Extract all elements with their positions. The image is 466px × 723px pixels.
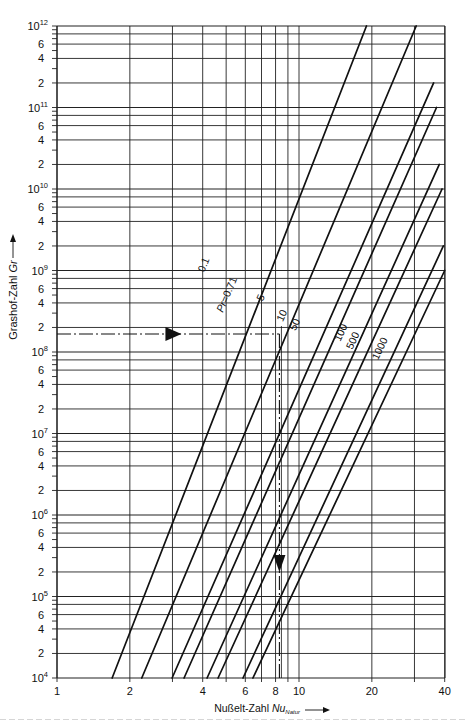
y-tick-label: 2 — [38, 566, 44, 578]
y-tick-label: 1012 — [27, 18, 48, 32]
y-tick-label: 2 — [38, 403, 44, 415]
y-tick-label: 109 — [32, 263, 48, 277]
y-tick-label: 104 — [32, 670, 48, 684]
curve-label: Pr=0.71 — [214, 275, 240, 314]
y-tick-label: 2 — [38, 158, 44, 170]
x-tick-label: 1 — [54, 685, 60, 697]
y-tick-label: 1011 — [28, 100, 48, 114]
nusselt-grashof-chart: 1042461052461062461072461082461092461010… — [0, 0, 466, 723]
y-tick-label: 6 — [38, 446, 44, 458]
y-tick-label: 2 — [38, 484, 44, 496]
y-axis-title: Grashof-Zahl Gr — [7, 259, 19, 340]
y-tick-label: 2 — [38, 77, 44, 89]
y-tick-label: 106 — [32, 507, 48, 521]
x-tick-label: 40 — [439, 685, 451, 697]
y-tick-label: 108 — [32, 344, 48, 358]
y-tick-label: 6 — [38, 364, 44, 376]
y-tick-label: 2 — [38, 647, 44, 659]
arrow-right-icon — [165, 327, 181, 341]
curve-pr-500 — [243, 246, 443, 678]
x-tick-label: 6 — [242, 685, 248, 697]
x-tick-label: 20 — [366, 685, 378, 697]
reading-guide — [57, 326, 285, 678]
y-tick-label: 6 — [38, 527, 44, 539]
curve-pr-50 — [207, 164, 439, 678]
y-tick-label: 6 — [38, 120, 44, 132]
y-tick-label: 6 — [38, 38, 44, 50]
y-tick-label: 6 — [38, 201, 44, 213]
x-tick-label: 10 — [293, 685, 305, 697]
y-tick-label: 4 — [38, 623, 44, 635]
grid — [52, 26, 445, 682]
caption-fragment — [0, 716, 466, 723]
x-tick-label: 8 — [272, 685, 278, 697]
y-tick-label: 4 — [38, 297, 44, 309]
y-tick-label: 4 — [38, 378, 44, 390]
y-tick-label: 4 — [38, 460, 44, 472]
curve-label: 5 — [254, 292, 267, 302]
y-tick-label: 2 — [38, 240, 44, 252]
y-tick-label: 105 — [32, 589, 48, 603]
y-tick-label: 4 — [38, 52, 44, 64]
y-tick-label: 4 — [38, 541, 44, 553]
x-tick-label: 2 — [127, 685, 133, 697]
y-tick-label: 1010 — [27, 181, 48, 195]
x-axis-title: Nußelt-Zahl NuNatur — [214, 702, 301, 715]
curve-pr-5 — [172, 83, 434, 678]
y-tick-label: 6 — [38, 609, 44, 621]
y-tick-label: 4 — [38, 215, 44, 227]
y-axis-ticks: 1042461052461062461072461082461092461010… — [27, 18, 48, 684]
x-tick-label: 4 — [200, 685, 206, 697]
x-axis-ticks: 12468102040 — [54, 685, 451, 697]
y-tick-label: 107 — [32, 426, 48, 440]
y-tick-label: 2 — [38, 321, 44, 333]
curve-pr-10 — [184, 108, 436, 679]
y-tick-label: 4 — [38, 134, 44, 146]
y-tick-label: 6 — [38, 283, 44, 295]
curve-labels: 0.1Pr=0.71510501005001000 — [195, 255, 390, 361]
